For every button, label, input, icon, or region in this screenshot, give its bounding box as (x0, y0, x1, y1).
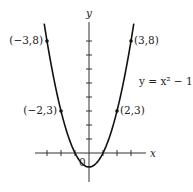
origin-label: 0 (79, 156, 86, 168)
data-points: (−3,8)(−2,3)(2,3)(3,8) (9, 34, 159, 116)
curve-equation-label: y = x² − 1 (138, 75, 193, 87)
y-axis-label: y (85, 7, 93, 19)
data-point (59, 109, 63, 113)
data-point (129, 39, 133, 43)
plot-area: (−3,8)(−2,3)(2,3)(3,8) x y 0 y = x² − 1 (0, 0, 193, 192)
data-point (115, 109, 119, 113)
data-point (45, 39, 49, 43)
parabola-graph: (−3,8)(−2,3)(2,3)(3,8) x y 0 y = x² − 1 (0, 0, 193, 192)
point-label: (−2,3) (23, 104, 57, 116)
x-axis-label: x (150, 147, 156, 159)
point-label: (3,8) (134, 34, 159, 46)
point-label: (2,3) (120, 104, 145, 116)
point-label: (−3,8) (9, 34, 43, 46)
